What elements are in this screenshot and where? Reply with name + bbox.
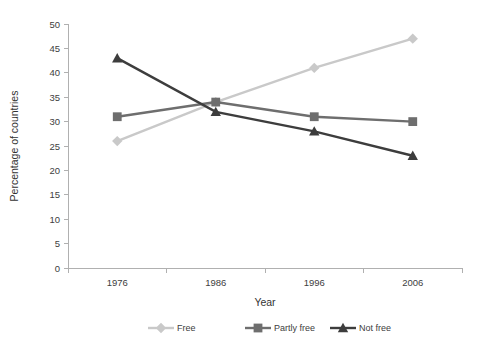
series-not-free bbox=[112, 53, 418, 160]
x-axis-title: Year bbox=[254, 296, 276, 308]
y-tick-label: 30 bbox=[49, 116, 60, 127]
y-tick-label: 20 bbox=[49, 165, 60, 176]
y-axis-ticks bbox=[64, 24, 68, 268]
series-0-point-2-diamond-marker bbox=[309, 63, 319, 73]
x-tick-label: 1976 bbox=[107, 277, 128, 288]
series-layer bbox=[112, 33, 418, 160]
series-2-point-0-triangle-marker bbox=[112, 53, 122, 62]
legend-item-free[interactable]: Free bbox=[148, 323, 196, 333]
series-1-point-2-square-marker bbox=[310, 112, 319, 121]
series-line bbox=[117, 39, 413, 141]
x-tick-label: 2006 bbox=[402, 277, 423, 288]
series-line bbox=[117, 58, 413, 156]
legend-label: Partly free bbox=[274, 323, 315, 333]
series-free bbox=[112, 33, 418, 146]
legend-item-partly-free[interactable]: Partly free bbox=[245, 323, 315, 333]
series-1-point-3-square-marker bbox=[408, 117, 417, 126]
series-0-point-3-diamond-marker bbox=[408, 33, 418, 43]
y-axis-tick-labels: 05101520253035404550 bbox=[49, 19, 60, 274]
y-tick-label: 40 bbox=[49, 67, 60, 78]
legend-label: Free bbox=[177, 323, 196, 333]
series-1-point-0-square-marker bbox=[113, 112, 122, 121]
y-tick-label: 0 bbox=[55, 263, 60, 274]
line-chart: 05101520253035404550 Percentage of count… bbox=[0, 0, 486, 343]
x-tick-label: 1986 bbox=[205, 277, 226, 288]
series-0-point-0-diamond-marker bbox=[112, 136, 122, 146]
series-line bbox=[117, 102, 413, 122]
legend-1-square-marker bbox=[254, 324, 263, 333]
y-tick-label: 25 bbox=[49, 141, 60, 152]
y-axis-group: 05101520253035404550 Percentage of count… bbox=[8, 19, 68, 274]
legend-label: Not free bbox=[359, 323, 391, 333]
series-1-point-1-square-marker bbox=[211, 98, 220, 107]
y-tick-label: 45 bbox=[49, 43, 60, 54]
legend-item-not-free[interactable]: Not free bbox=[330, 323, 391, 333]
chart-legend: FreePartly freeNot free bbox=[148, 323, 391, 333]
x-axis-ticks bbox=[68, 268, 462, 273]
y-tick-label: 10 bbox=[49, 214, 60, 225]
y-tick-label: 35 bbox=[49, 92, 60, 103]
x-tick-label: 1996 bbox=[304, 277, 325, 288]
x-axis-tick-labels: 1976198619962006 bbox=[107, 277, 424, 288]
x-axis-group: 1976198619962006 Year bbox=[68, 268, 462, 308]
y-tick-label: 5 bbox=[55, 238, 60, 249]
y-tick-label: 15 bbox=[49, 189, 60, 200]
y-tick-label: 50 bbox=[49, 19, 60, 30]
chart-container: 05101520253035404550 Percentage of count… bbox=[0, 0, 486, 343]
legend-0-diamond-marker bbox=[156, 323, 166, 333]
y-axis-title: Percentage of countries bbox=[8, 91, 20, 202]
